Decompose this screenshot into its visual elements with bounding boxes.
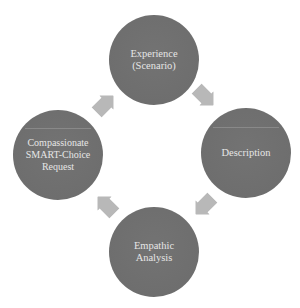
node-description: Description	[201, 108, 291, 198]
arrow-empathic-analysis-to-compassionate-request	[90, 189, 121, 220]
arrow-description-to-empathic-analysis	[188, 190, 219, 221]
chevron-arrow-icon	[90, 189, 121, 220]
node-empathic-analysis: Empathic Analysis	[109, 207, 199, 297]
node-empathic-analysis-label: Empathic Analysis	[134, 240, 174, 264]
arrow-compassionate-request-to-experience	[89, 88, 120, 119]
node-experience-label: Experience (Scenario)	[130, 48, 177, 72]
chevron-arrow-icon	[189, 81, 220, 112]
cropped-top-text	[0, 0, 300, 6]
chevron-arrow-icon	[188, 190, 219, 221]
node-experience: Experience (Scenario)	[109, 15, 199, 105]
arrow-experience-to-description	[189, 81, 220, 112]
node-description-label: Description	[222, 147, 271, 159]
node-compassionate-request-label: Compassionate SMART-Choice Request	[26, 137, 91, 173]
node-compassionate-request: Compassionate SMART-Choice Request	[13, 110, 103, 200]
scan-artifact-line	[25, 128, 91, 129]
scan-artifact-line	[213, 127, 279, 128]
chevron-arrow-icon	[89, 88, 120, 119]
